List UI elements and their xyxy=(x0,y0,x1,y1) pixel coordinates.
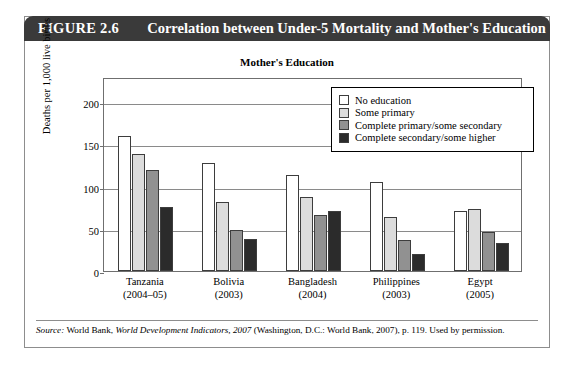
source-rest: (Washington, D.C.: World Bank, 2007), p.… xyxy=(254,325,505,335)
chart-title: Mother's Education xyxy=(25,56,549,68)
bar xyxy=(370,182,383,271)
x-axis-label: Tanzania(2004–05) xyxy=(123,275,167,301)
source-divider xyxy=(36,320,538,321)
x-axis-year: (2005) xyxy=(466,288,494,301)
x-axis-country: Bangladesh xyxy=(288,275,337,288)
x-axis-label: Bolivia(2003) xyxy=(213,275,244,301)
y-tick-label: 100 xyxy=(83,183,99,194)
x-axis-year: (2003) xyxy=(213,288,244,301)
y-tick-mark xyxy=(100,273,104,274)
x-axis-label: Egypt(2005) xyxy=(466,275,494,301)
y-tick-label: 150 xyxy=(83,141,99,152)
legend-label: No education xyxy=(355,95,411,106)
legend-label: Complete primary/some secondary xyxy=(355,120,502,131)
figure-title: Correlation between Under-5 Mortality an… xyxy=(147,20,546,37)
bar xyxy=(328,211,341,271)
x-axis-label: Bangladesh(2004) xyxy=(288,275,337,301)
legend-item: Complete secondary/some higher xyxy=(339,132,526,143)
source-work-title: World Development Indicators, 2007 xyxy=(115,325,251,335)
y-tick-label: 0 xyxy=(94,268,99,279)
bar xyxy=(230,230,243,271)
legend: No educationSome primaryComplete primary… xyxy=(331,87,534,152)
x-axis-label: Philippines(2003) xyxy=(373,275,420,301)
bar xyxy=(202,163,215,271)
chart-area: Mother's Education Deaths per 1,000 live… xyxy=(25,41,549,347)
bar xyxy=(132,154,145,271)
bar xyxy=(216,202,229,271)
legend-swatch xyxy=(339,133,349,143)
x-axis-country: Philippines xyxy=(373,275,420,288)
source-publisher: World Bank, xyxy=(66,325,113,335)
x-axis-year: (2003) xyxy=(373,288,420,301)
legend-swatch xyxy=(339,95,349,105)
x-axis-year: (2004–05) xyxy=(123,288,167,301)
bar xyxy=(412,254,425,271)
figure-page: FIGURE 2.6 Correlation between Under-5 M… xyxy=(0,0,573,371)
legend-label: Complete secondary/some higher xyxy=(355,132,496,143)
legend-swatch xyxy=(339,120,349,130)
legend-item: No education xyxy=(339,95,526,106)
x-axis-year: (2004) xyxy=(288,288,337,301)
y-tick-label: 200 xyxy=(83,99,99,110)
x-axis-country: Bolivia xyxy=(213,275,244,288)
legend-item: Some primary xyxy=(339,107,526,118)
bar xyxy=(398,240,411,271)
bar xyxy=(454,211,467,271)
bar xyxy=(286,175,299,271)
y-tick-label: 50 xyxy=(89,225,100,236)
legend-label: Some primary xyxy=(355,107,415,118)
bar-group xyxy=(104,79,188,271)
x-axis-labels: Tanzania(2004–05)Bolivia(2003)Bangladesh… xyxy=(103,275,522,315)
bar xyxy=(118,136,131,271)
source-prefix: Source: xyxy=(36,325,64,335)
bar xyxy=(384,217,397,271)
source-note: Source: World Bank, World Development In… xyxy=(36,325,542,337)
legend-item: Complete primary/some secondary xyxy=(339,120,526,131)
bar xyxy=(146,170,159,271)
figure-header-bar: FIGURE 2.6 Correlation between Under-5 M… xyxy=(24,16,550,41)
y-axis-label: Deaths per 1,000 live births xyxy=(41,16,53,136)
x-axis-country: Egypt xyxy=(466,275,494,288)
bar xyxy=(160,207,173,271)
x-axis-country: Tanzania xyxy=(123,275,167,288)
bar xyxy=(244,239,257,271)
bar xyxy=(496,243,509,271)
bar xyxy=(314,215,327,272)
bar-group xyxy=(188,79,272,271)
bar xyxy=(300,197,313,271)
bar xyxy=(468,209,481,271)
bar xyxy=(482,232,495,271)
y-axis-label-text: Deaths per 1,000 live births xyxy=(41,18,52,134)
legend-swatch xyxy=(339,108,349,118)
